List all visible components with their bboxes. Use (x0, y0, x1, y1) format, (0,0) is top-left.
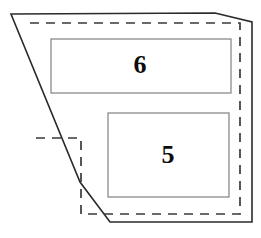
floor-plan-figure: 6 5 (0, 0, 261, 238)
room-label-5: 5 (148, 142, 188, 168)
floor-plan-canvas (0, 0, 261, 238)
room-label-6: 6 (120, 52, 160, 78)
